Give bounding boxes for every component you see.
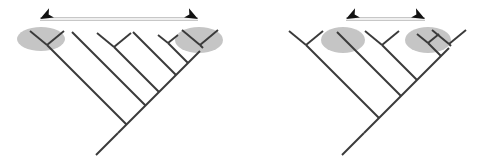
right-tree-clade-1-left-tip [289, 31, 306, 45]
right-tree-spine [364, 48, 449, 133]
right-tree-clade-3-right-tip [382, 31, 399, 45]
left-cladogram [17, 8, 223, 155]
right-tree-clade-3-left-tip [365, 31, 382, 45]
left-tree-clade-3-stem [114, 47, 159, 92]
left-tree-clade-1-stem [47, 45, 127, 125]
right-tree-arrow-head-left [346, 8, 360, 19]
cladogram-figure [0, 0, 490, 165]
right-tree-clade-5-right-tip [449, 30, 466, 44]
right-tree-root-branch [342, 133, 364, 155]
right-tree-clade-1-stem [306, 45, 379, 118]
right-cladogram [289, 8, 466, 155]
left-tree-clade-4-stem [133, 32, 176, 75]
left-tree-root-branch [96, 133, 118, 155]
left-tree-clade-5-left-tip [158, 35, 168, 43]
left-tree-clade-3-left-tip [97, 33, 114, 47]
left-tree-arrow-head-left [40, 8, 54, 19]
right-tree-clade-3-stem [382, 45, 417, 80]
left-tree-arrow [40, 8, 198, 19]
right-tree-clade-1-right-tip [306, 31, 323, 45]
left-tree-highlights [17, 27, 223, 53]
left-tree-arrow-head-right [184, 8, 198, 19]
right-tree-arrow [346, 8, 425, 19]
left-tree-clade-3-right-tip [114, 33, 131, 47]
right-tree-arrow-head-right [411, 8, 425, 19]
right-tree-highlight-a [321, 27, 365, 53]
figure-root [0, 0, 490, 165]
